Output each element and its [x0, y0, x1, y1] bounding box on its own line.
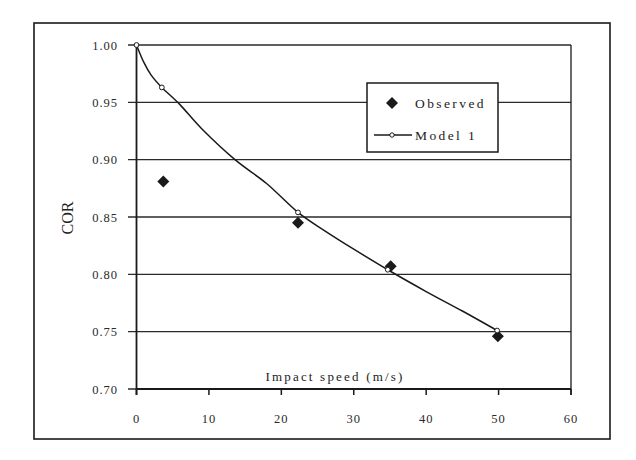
y-tick-label: 0.85 — [92, 211, 118, 225]
y-tick-label: 0.80 — [92, 268, 118, 282]
legend: Observed Model 1 — [367, 83, 498, 152]
model-point — [495, 328, 500, 333]
model-point — [134, 43, 139, 48]
x-axis-title: Impact speed (m/s) — [265, 369, 404, 384]
y-tick-label: 0.90 — [92, 153, 118, 167]
legend-observed-label: Observed — [415, 96, 486, 111]
legend-model-circle-icon — [390, 133, 394, 137]
x-tick-label: 30 — [347, 412, 362, 426]
chart-figure: 0.700.750.800.850.900.951.00010203040506… — [0, 0, 636, 460]
x-tick-label: 0 — [133, 412, 140, 426]
y-axis-title: COR — [59, 201, 76, 234]
model-point — [159, 85, 164, 90]
y-tick-label: 0.70 — [92, 383, 118, 397]
x-tick-label: 60 — [564, 412, 579, 426]
model-point — [296, 210, 301, 215]
x-tick-label: 40 — [419, 412, 434, 426]
legend-model-label: Model 1 — [415, 128, 477, 143]
observed-point — [292, 217, 304, 229]
y-tick-label: 0.95 — [92, 96, 118, 110]
y-tick-label: 0.75 — [92, 325, 118, 339]
observed-point — [157, 175, 169, 187]
x-tick-label: 50 — [491, 412, 506, 426]
plot-area: 0.700.750.800.850.900.951.00010203040506… — [92, 39, 578, 427]
y-tick-label: 1.00 — [92, 39, 118, 53]
model-point — [385, 267, 390, 272]
x-tick-label: 10 — [202, 412, 217, 426]
x-tick-label: 20 — [274, 412, 289, 426]
